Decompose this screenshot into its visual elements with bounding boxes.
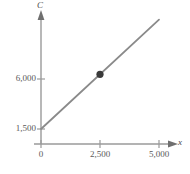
data-point-marker <box>96 71 103 78</box>
y-axis-arrowhead <box>38 10 45 20</box>
x-axis-title: x <box>178 138 182 147</box>
plot-area <box>0 0 190 174</box>
x-tick-label-0: 0 <box>31 150 51 159</box>
y-tick-label-6000: 6,000 <box>0 74 36 83</box>
x-tick-label-2500: 2,500 <box>85 150 115 159</box>
chart-figure: C x 6,000 1,500 0 2,500 5,000 <box>0 0 190 174</box>
x-axis-arrowhead <box>168 140 178 147</box>
y-axis-title: C <box>37 1 43 10</box>
y-tick-label-1500: 1,500 <box>0 124 36 133</box>
x-tick-label-5000: 5,000 <box>144 150 174 159</box>
